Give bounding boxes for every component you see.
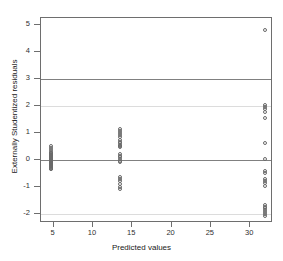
data-point [263, 28, 267, 32]
plot-area [40, 17, 272, 222]
data-point [118, 145, 122, 149]
y-tick-label: -1 [10, 182, 30, 190]
data-point [263, 141, 267, 145]
y-tick-label: 4 [10, 47, 30, 55]
x-tick [171, 222, 172, 227]
data-point [118, 187, 122, 191]
x-tick-label: 10 [80, 229, 104, 237]
reference-line-y2 [41, 106, 271, 107]
data-point [49, 167, 53, 171]
x-tick-label: 25 [198, 229, 222, 237]
x-tick-label: 30 [237, 229, 261, 237]
x-tick [92, 222, 93, 227]
data-point [263, 110, 267, 114]
y-tick-label: 1 [10, 128, 30, 136]
data-point [263, 184, 267, 188]
x-tick-label: 15 [119, 229, 143, 237]
x-tick [53, 222, 54, 227]
data-point [263, 214, 267, 218]
x-tick-label: 20 [159, 229, 183, 237]
reference-line-y-2 [41, 214, 271, 215]
y-axis-title: Externally Studentized residuals [10, 37, 19, 197]
residual-plot-figure: Externally Studentized residuals -2-1012… [0, 0, 283, 261]
y-tick-label: -2 [10, 209, 30, 217]
x-tick [131, 222, 132, 227]
y-tick-label: 3 [10, 74, 30, 82]
x-tick [249, 222, 250, 227]
y-tick-label: 5 [10, 20, 30, 28]
data-point [263, 171, 267, 175]
x-axis-title: Predicted values [0, 243, 283, 252]
data-point [263, 157, 267, 161]
y-tick-label: 2 [10, 101, 30, 109]
data-point [118, 160, 122, 164]
x-tick [210, 222, 211, 227]
reference-line-y0 [41, 160, 271, 161]
data-point [263, 116, 267, 120]
y-tick-label: 0 [10, 155, 30, 163]
x-tick-label: 5 [41, 229, 65, 237]
reference-line-y3 [41, 79, 271, 80]
